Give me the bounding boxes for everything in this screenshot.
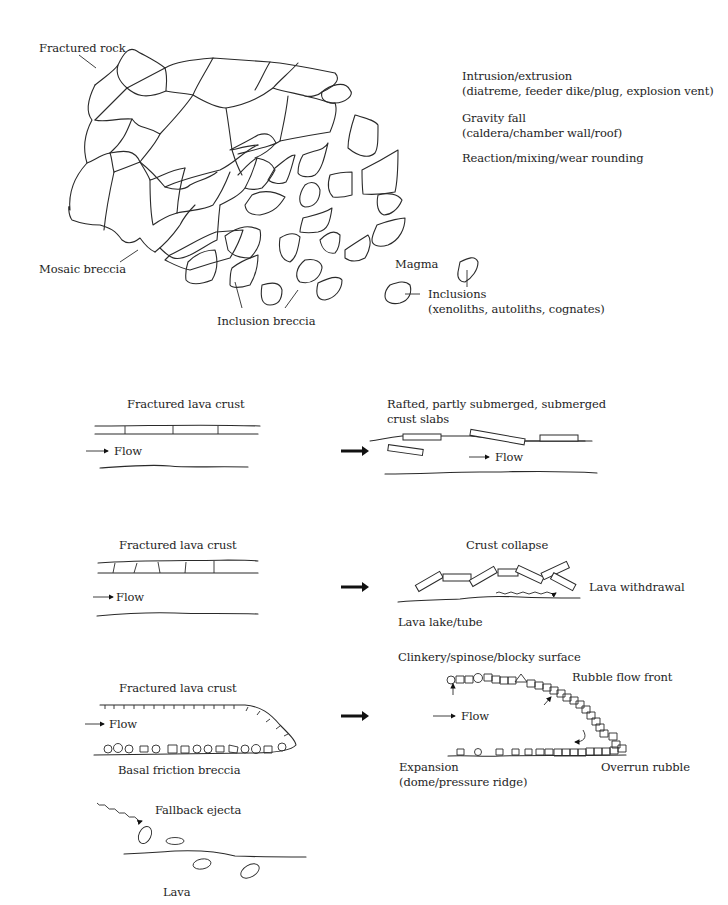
label-inclusions: Inclusions: [428, 287, 486, 302]
panel3-before: [93, 560, 258, 616]
p4-basal-friction-breccia: Basal friction breccia: [118, 763, 240, 778]
p2-after-label-2: crust slabs: [387, 412, 449, 427]
label-magma: Magma: [395, 257, 438, 272]
p3-lava-withdrawal: Lava withdrawal: [589, 580, 685, 595]
p3-before-flow: Flow: [116, 590, 144, 605]
label-inclusion-breccia: Inclusion breccia: [217, 314, 315, 329]
p3-lava-lake: Lava lake/tube: [398, 615, 482, 630]
process-2-title: Gravity fall: [462, 111, 526, 126]
p5-lava: Lava: [163, 885, 190, 900]
p4-surface-label: Clinkery/spinose/blocky surface: [398, 650, 581, 665]
breccia-diagram: Fractured rock Mosaic breccia Inclusion …: [0, 0, 728, 905]
transform-arrow-2: [341, 582, 369, 592]
transform-arrow-3: [341, 711, 369, 721]
label-fractured-rock: Fractured rock: [39, 41, 126, 56]
p4-before-label: Fractured lava crust: [119, 681, 237, 696]
p3-before-label: Fractured lava crust: [119, 538, 237, 553]
p2-before-label: Fractured lava crust: [127, 397, 245, 412]
process-1-detail: (diatreme, feeder dike/plug, explosion v…: [462, 84, 714, 99]
p3-after-label: Crust collapse: [466, 538, 548, 553]
p2-before-flow: Flow: [114, 444, 142, 459]
p5-fallback-ejecta: Fallback ejecta: [155, 803, 241, 818]
transform-arrow-1: [341, 446, 369, 456]
panel3-after: [398, 561, 580, 602]
p2-after-flow: Flow: [495, 450, 523, 465]
p4-flow-front-label: Rubble flow front: [572, 670, 672, 685]
p4-expansion-1: Expansion: [399, 760, 459, 775]
label-mosaic-breccia: Mosaic breccia: [39, 262, 126, 277]
p2-after-label-1: Rafted, partly submerged, submerged: [387, 397, 606, 412]
p4-overrun-rubble: Overrun rubble: [601, 760, 690, 775]
process-3-title: Reaction/mixing/wear rounding: [462, 151, 643, 166]
panel2-before: [86, 425, 260, 468]
p4-expansion-2: (dome/pressure ridge): [399, 775, 527, 790]
label-inclusion-types: (xenoliths, autoliths, cognates): [428, 302, 605, 317]
p4-after-flow: Flow: [461, 709, 489, 724]
process-2-detail: (caldera/chamber wall/roof): [462, 126, 622, 141]
process-1-title: Intrusion/extrusion: [462, 69, 572, 84]
panel2-after: [370, 429, 597, 474]
p4-before-flow: Flow: [109, 717, 137, 732]
